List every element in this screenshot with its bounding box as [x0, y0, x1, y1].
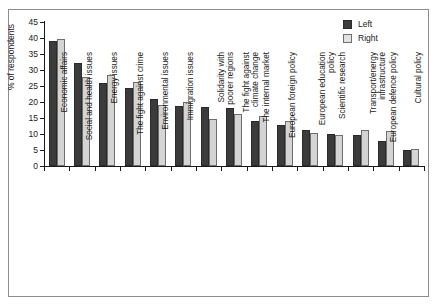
category-label: Transport/energyinfrastructure: [369, 52, 388, 172]
bar-left: [302, 130, 310, 166]
category-label: European educationpolicy: [318, 52, 337, 172]
bar-left: [49, 41, 57, 166]
category-label: Immigration issues: [186, 52, 195, 172]
legend-item-left: Left: [343, 20, 378, 29]
legend-label-left: Left: [358, 20, 372, 29]
x-tick-mark: [399, 167, 400, 171]
x-tick-mark: [272, 167, 273, 171]
x-tick-mark: [44, 167, 45, 171]
y-axis-label: % of respondents: [6, 7, 16, 107]
bar-left: [403, 150, 411, 166]
chart-legend: Left Right: [343, 20, 378, 48]
x-tick-mark: [348, 167, 349, 171]
y-tick-label: 35: [20, 50, 38, 59]
legend-item-right: Right: [343, 34, 378, 43]
y-tick-label: 45: [20, 18, 38, 27]
category-label: The fight against crime: [136, 52, 145, 172]
category-label: Economic affairs: [60, 52, 69, 172]
chart-figure: 051015202530354045 % of respondents Econ…: [0, 0, 437, 306]
legend-swatch-left: [343, 20, 352, 29]
category-label: Environmental issues: [161, 52, 170, 172]
x-tick-mark: [69, 167, 70, 171]
bar-left: [201, 107, 209, 166]
category-label: Energy issues: [110, 52, 119, 172]
category-label: The internal market: [262, 52, 271, 172]
y-tick-label: 25: [20, 82, 38, 91]
y-tick-label: 30: [20, 66, 38, 75]
x-tick-mark: [196, 167, 197, 171]
bar-right: [361, 130, 369, 166]
category-label: Scientific research: [338, 52, 347, 172]
y-tick-label: 5: [20, 146, 38, 155]
x-tick-mark: [120, 167, 121, 171]
y-tick-label: 10: [20, 130, 38, 139]
x-tick-mark: [424, 167, 425, 171]
y-tick-label: 15: [20, 114, 38, 123]
x-tick-mark: [95, 167, 96, 171]
x-tick-mark: [297, 167, 298, 171]
bar-left: [150, 99, 158, 166]
category-label: Solidarity withpoorer regions: [217, 52, 236, 172]
bar-left: [99, 83, 107, 166]
bar-right: [310, 133, 318, 166]
x-tick-mark: [171, 167, 172, 171]
y-tick-label: 0: [20, 162, 38, 171]
category-label: The fight againstclimate change: [242, 52, 261, 172]
category-label: European defence policy: [389, 52, 398, 172]
bar-group: [302, 22, 318, 166]
bar-left: [74, 63, 82, 166]
bar-left: [175, 106, 183, 166]
legend-swatch-right: [343, 34, 352, 43]
category-label: Social and health issues: [85, 52, 94, 172]
bar-group: [201, 22, 217, 166]
legend-label-right: Right: [358, 34, 378, 43]
y-tick-label: 20: [20, 98, 38, 107]
category-label: European foreign policy: [288, 52, 297, 172]
category-label: Cultural policy: [414, 52, 423, 172]
y-tick-label: 40: [20, 34, 38, 43]
x-tick-mark: [145, 167, 146, 171]
bar-left: [277, 125, 285, 166]
bar-left: [353, 135, 361, 166]
bar-right: [209, 119, 217, 166]
bar-left: [125, 88, 133, 166]
